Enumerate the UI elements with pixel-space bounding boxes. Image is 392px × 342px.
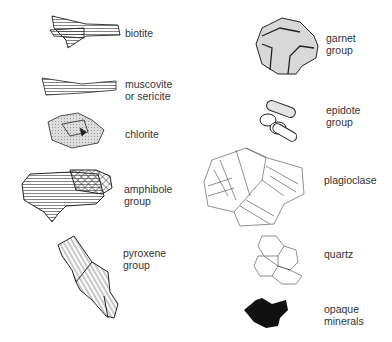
plagioclase-figure	[204, 148, 304, 226]
label-pyroxene-line2: group	[123, 259, 150, 271]
amphibole-figure	[22, 170, 112, 222]
garnet-figure	[256, 18, 318, 74]
label-garnet-line2: group	[326, 44, 353, 56]
chlorite-figure	[48, 113, 104, 148]
label-amphibole-line1: amphibole	[124, 183, 172, 195]
label-chlorite: chlorite	[125, 128, 159, 140]
pyroxene-figure	[58, 236, 118, 318]
label-opaque-line2: minerals	[324, 315, 364, 327]
label-muscovite-line2: or sericite	[125, 90, 171, 102]
label-opaque: opaqueminerals	[324, 303, 364, 327]
label-garnet-line1: garnet	[326, 32, 356, 44]
label-muscovite-line1: muscovite	[125, 78, 172, 90]
opaque-figure	[244, 298, 288, 328]
label-amphibole-line2: group	[124, 195, 151, 207]
label-pyroxene-line1: pyroxene	[123, 247, 166, 259]
label-pyroxene: pyroxenegroup	[123, 247, 166, 271]
label-muscovite: muscoviteor sericite	[125, 78, 172, 102]
label-amphibole: amphibolegroup	[124, 183, 172, 207]
quartz-figure	[254, 236, 302, 284]
muscovite-figure	[42, 78, 116, 95]
label-epidote-line1: epidote	[326, 104, 360, 116]
label-garnet: garnetgroup	[326, 32, 356, 56]
label-opaque-line1: opaque	[324, 303, 359, 315]
epidote-figure	[260, 99, 298, 143]
label-epidote-line2: group	[326, 116, 353, 128]
label-epidote: epidotegroup	[326, 104, 360, 128]
label-quartz: quartz	[324, 248, 353, 260]
label-plagioclase: plagioclase	[324, 174, 377, 186]
label-biotite: biotite	[125, 27, 153, 39]
biotite-figure	[50, 16, 120, 48]
